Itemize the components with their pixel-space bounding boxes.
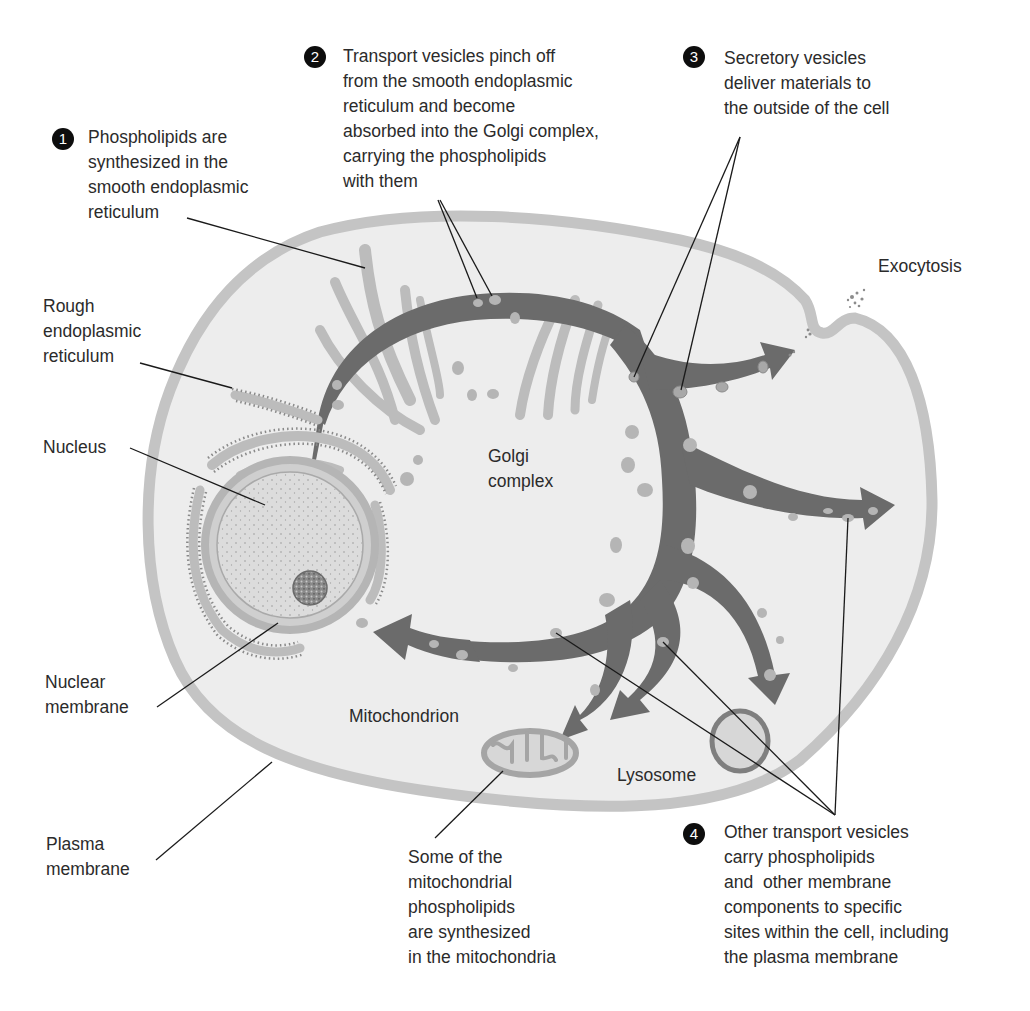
step-3-badge: 3 <box>683 46 705 68</box>
label-nucleus: Nucleus <box>43 435 106 460</box>
label-plasma-membrane: Plasma membrane <box>46 832 130 882</box>
step-4-badge: 4 <box>683 823 705 845</box>
label-rough-er: Rough endoplasmic reticulum <box>43 294 141 369</box>
label-mito-note: Some of the mitochondrial phospholipids … <box>408 845 556 970</box>
step-1-text: Phospholipids are synthesized in the smo… <box>88 125 249 225</box>
step-1-badge: 1 <box>52 128 74 150</box>
label-nuclear-membrane: Nuclear membrane <box>45 670 129 720</box>
mitochondrion <box>484 731 576 775</box>
step-4-text: Other transport vesicles carry phospholi… <box>724 820 949 970</box>
step-2-badge: 2 <box>304 46 326 68</box>
label-exocytosis: Exocytosis <box>878 254 962 279</box>
label-lysosome: Lysosome <box>617 763 696 788</box>
step-3-text: Secretory vesicles deliver materials to … <box>724 46 889 121</box>
label-golgi: Golgi complex <box>488 444 553 494</box>
nucleolus <box>293 571 327 605</box>
label-mitochondrion: Mitochondrion <box>349 704 459 729</box>
nucleus <box>205 460 375 630</box>
step-2-text: Transport vesicles pinch off from the sm… <box>343 44 599 194</box>
